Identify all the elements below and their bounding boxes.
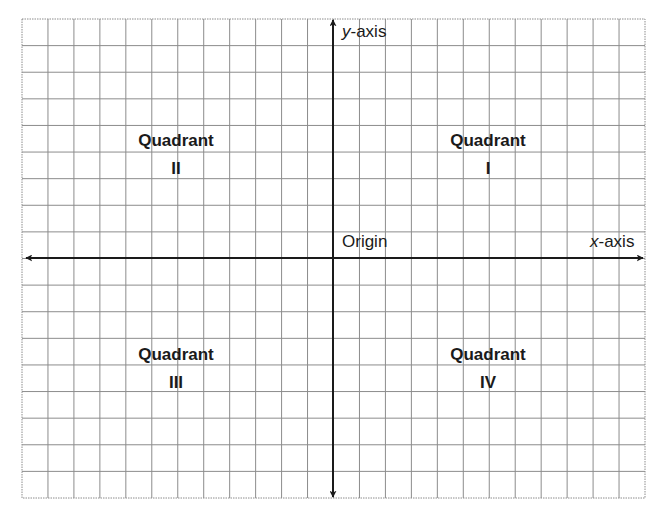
quadrant-numeral: III [116,374,236,391]
quadrant-numeral: I [428,160,548,177]
quadrant-word: Quadrant [138,345,214,364]
quadrant-2-label: Quadrant II [116,132,236,177]
origin-label: Origin [342,233,387,250]
coordinate-plane [0,0,672,520]
x-axis-variable: x [590,232,599,251]
quadrant-word: Quadrant [450,345,526,364]
y-axis-label: y-axis [342,23,386,40]
quadrant-word: Quadrant [450,131,526,150]
x-axis-suffix: -axis [599,232,635,251]
y-axis-suffix: -axis [351,22,387,41]
quadrant-4-label: Quadrant IV [428,346,548,391]
quadrant-1-label: Quadrant I [428,132,548,177]
y-axis-variable: y [342,22,351,41]
x-axis-label: x-axis [590,233,634,250]
quadrant-word: Quadrant [138,131,214,150]
quadrant-3-label: Quadrant III [116,346,236,391]
quadrant-numeral: II [116,160,236,177]
quadrant-numeral: IV [428,374,548,391]
